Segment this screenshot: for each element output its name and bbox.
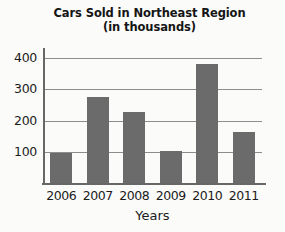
bar-2010 [196, 64, 218, 183]
y-tick-label-400: 400 [0, 50, 37, 65]
x-tick-label-2006: 2006 [44, 188, 78, 203]
y-tick-label-200: 200 [0, 113, 37, 128]
bar-2006 [50, 153, 72, 183]
x-tick-label-2008: 2008 [117, 188, 151, 203]
chart-title-block: Cars Sold in Northeast Region (in thousa… [22, 7, 277, 34]
chart-subtitle: (in thousands) [22, 21, 277, 35]
x-tick-label-2009: 2009 [154, 188, 188, 203]
bar-chart-screenshot: Cars Sold in Northeast Region (in thousa… [0, 0, 285, 232]
x-axis-title: Years [43, 208, 262, 223]
x-tick-label-2010: 2010 [190, 188, 224, 203]
bars-layer [43, 48, 262, 184]
bar-2009 [160, 151, 182, 183]
y-tick-label-300: 300 [0, 81, 37, 96]
bar-2007 [87, 97, 109, 183]
x-axis-category-labels: 200620072008200920102011 [43, 188, 262, 204]
plot-area [43, 48, 262, 184]
y-tick-label-100: 100 [0, 144, 37, 159]
page-title: Cars Sold in Northeast Region [22, 7, 277, 21]
x-tick-label-2011: 2011 [227, 188, 261, 203]
x-tick-label-2007: 2007 [81, 188, 115, 203]
bar-2008 [123, 112, 145, 183]
bar-2011 [233, 132, 255, 183]
